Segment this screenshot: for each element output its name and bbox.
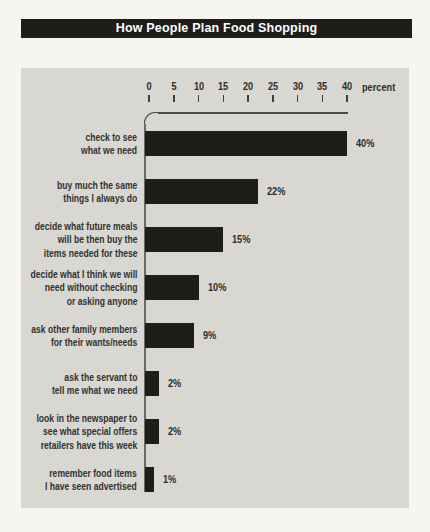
axis-tick-label: 5 bbox=[171, 81, 176, 92]
chart-title: How People Plan Food Shopping bbox=[116, 21, 318, 35]
axis-tick bbox=[198, 95, 200, 102]
bar-value-label: 15% bbox=[232, 227, 250, 252]
axis-tick bbox=[322, 95, 324, 102]
bar-value-label: 10% bbox=[208, 275, 226, 300]
bar bbox=[145, 419, 159, 444]
chart-title-bar: How People Plan Food Shopping bbox=[21, 19, 412, 38]
bar-category-label: ask other family members for their wants… bbox=[31, 322, 137, 349]
axis-tick bbox=[272, 95, 274, 102]
bar bbox=[145, 467, 154, 492]
axis-tick bbox=[173, 95, 175, 102]
bar bbox=[145, 227, 223, 252]
bar bbox=[145, 275, 199, 300]
axis-tick-label: 20 bbox=[243, 81, 253, 92]
axis-corner bbox=[144, 112, 159, 125]
bar-category-label: decide what future meals will be then bu… bbox=[34, 219, 137, 260]
chart-panel: percent 0510152025303540 40%check to see… bbox=[21, 68, 409, 508]
bar-category-label: decide what I think we will need without… bbox=[30, 267, 137, 308]
bar bbox=[145, 179, 258, 204]
bar bbox=[145, 371, 159, 396]
bar-value-label: 22% bbox=[267, 179, 285, 204]
axis-tick bbox=[148, 95, 150, 102]
axis-tick-label: 0 bbox=[146, 81, 151, 92]
bar-value-label: 1% bbox=[163, 467, 176, 492]
axis-tick bbox=[297, 95, 299, 102]
bar-category-label: buy much the same things I always do bbox=[57, 178, 137, 205]
axis-line bbox=[158, 112, 348, 114]
axis-tick-label: 15 bbox=[218, 81, 228, 92]
bar-category-label: look in the newspaper to see what specia… bbox=[36, 411, 137, 452]
axis-tick-label: 25 bbox=[268, 81, 278, 92]
axis-tick bbox=[247, 95, 249, 102]
bar-category-label: ask the servant to tell me what we need bbox=[51, 370, 137, 397]
bar bbox=[145, 323, 194, 348]
bar-value-label: 9% bbox=[203, 323, 216, 348]
bar-category-label: check to see what we need bbox=[81, 130, 137, 157]
axis-tick bbox=[223, 95, 225, 102]
bar-value-label: 2% bbox=[168, 371, 181, 396]
bar bbox=[145, 131, 347, 156]
axis-tick-label: 30 bbox=[292, 81, 302, 92]
bar-category-label: remember food items I have seen advertis… bbox=[45, 466, 137, 493]
axis-tick-label: 35 bbox=[317, 81, 327, 92]
axis-tick-label: 40 bbox=[342, 81, 352, 92]
axis-tick-label: 10 bbox=[193, 81, 203, 92]
bar-value-label: 2% bbox=[168, 419, 181, 444]
axis-tick bbox=[346, 95, 348, 102]
bar-value-label: 40% bbox=[356, 131, 374, 156]
axis-unit-label: percent bbox=[362, 82, 395, 93]
